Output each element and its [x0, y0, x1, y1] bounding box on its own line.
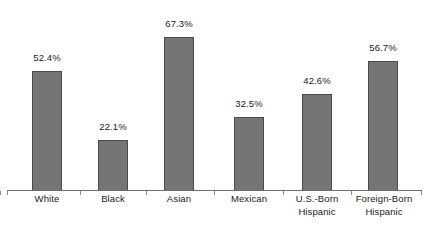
category-label-line: Black [101, 193, 125, 204]
bar[interactable] [98, 140, 128, 191]
category-label-line: U.S.-Born [296, 193, 339, 204]
bar-value-label: 42.6% [303, 75, 330, 86]
bar-chart: 52.4% 22.1% 67.3% 32.5% 42.6% 56.7% [0, 0, 429, 230]
category-label-black: Black [83, 193, 143, 206]
category-label-line: White [35, 193, 60, 204]
bar[interactable] [32, 71, 62, 191]
bar-value-label: 67.3% [165, 18, 192, 29]
bar-value-label: 22.1% [99, 121, 126, 132]
category-label-us-born-hispanic: U.S.-Born Hispanic [282, 193, 352, 218]
category-labels: White Black Asian Mexican U.S.-Born Hisp… [0, 193, 429, 230]
bar[interactable] [234, 117, 264, 191]
category-label-white: White [17, 193, 77, 206]
bar-value-label: 56.7% [369, 42, 396, 53]
bar-group: 67.3% [164, 0, 194, 191]
plot-area: 52.4% 22.1% 67.3% 32.5% 42.6% 56.7% [0, 0, 429, 191]
bar[interactable] [164, 37, 194, 191]
bar-group: 22.1% [98, 0, 128, 191]
category-label-asian: Asian [149, 193, 209, 206]
bar-group: 32.5% [234, 0, 264, 191]
bar-value-label: 52.4% [33, 52, 60, 63]
bar-group: 42.6% [302, 0, 332, 191]
bar-value-label: 32.5% [235, 98, 262, 109]
category-label-line: Asian [167, 193, 191, 204]
category-label-foreign-born-hispanic: Foreign-Born Hispanic [345, 193, 423, 218]
bar[interactable] [302, 94, 332, 191]
bar-group: 52.4% [32, 0, 62, 191]
bar[interactable] [368, 61, 398, 191]
category-label-line: Hispanic [282, 206, 352, 219]
category-label-line: Mexican [231, 193, 267, 204]
category-label-line: Foreign-Born [356, 193, 413, 204]
category-label-mexican: Mexican [219, 193, 279, 206]
category-label-line: Hispanic [345, 206, 423, 219]
bar-group: 56.7% [368, 0, 398, 191]
